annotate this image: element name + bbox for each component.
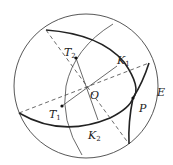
label-k2: K2 [87, 129, 101, 143]
label-o: O [90, 89, 99, 102]
label-t2: T2 [64, 46, 76, 60]
point-p [131, 96, 134, 99]
label-e: E [156, 86, 165, 99]
point-t1 [60, 104, 63, 107]
label-p: P [138, 102, 147, 115]
sphere-diagram: T2 K1 O T1 P K2 E [0, 0, 173, 165]
label-t1: T1 [49, 108, 61, 122]
label-k1: K1 [116, 54, 130, 68]
